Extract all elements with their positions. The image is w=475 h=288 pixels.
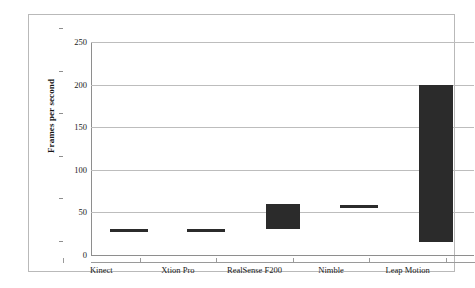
- y-axis-tick-label: 50: [57, 208, 87, 217]
- y-axis-tick-label: 150: [57, 123, 87, 132]
- bar-kinect: [110, 229, 148, 232]
- x-axis-tick-mark: [216, 258, 217, 263]
- y-axis-tick-label: 0: [57, 251, 87, 260]
- gridline: [91, 255, 474, 256]
- gridline: [91, 170, 474, 171]
- y-axis-tick-mark: [59, 71, 63, 72]
- x-axis-tick-mark: [446, 258, 447, 263]
- x-axis-category-label: Leap Motion: [369, 266, 446, 275]
- bar-leap-motion: [419, 85, 453, 243]
- gridline: [91, 85, 474, 86]
- y-axis-tick-mark: [59, 28, 63, 29]
- y-axis-tick-label: 250: [57, 38, 87, 47]
- plot-area: [91, 42, 474, 255]
- bar-nimble: [340, 205, 378, 208]
- bar-xtion-pro: [187, 229, 225, 232]
- y-axis-tick-label: 100: [57, 166, 87, 175]
- chart-frame: Frames per second 050100150200250 Kinect…: [28, 14, 455, 272]
- x-axis-tick-mark: [293, 258, 294, 263]
- bar-realsense-f200: [266, 204, 300, 230]
- x-axis-line: [91, 262, 475, 263]
- y-axis-tick-mark: [59, 241, 63, 242]
- gridline: [91, 42, 474, 43]
- y-axis-tick-mark: [59, 113, 63, 114]
- y-axis-tick-mark: [59, 156, 63, 157]
- y-axis-tick-mark: [59, 198, 63, 199]
- x-axis-tick-mark: [369, 258, 370, 263]
- y-axis-tick-labels: 050100150200250: [55, 42, 87, 255]
- x-axis-category-label: Nimble: [293, 266, 370, 275]
- x-axis-category-label: Xtion Pro: [140, 266, 217, 275]
- gridline: [91, 127, 474, 128]
- y-axis-tick-label: 200: [57, 81, 87, 90]
- x-axis-category-label: Kinect: [63, 266, 140, 275]
- x-axis-category-label: RealSense F200: [216, 266, 293, 275]
- x-axis-tick-mark: [63, 258, 64, 263]
- x-axis-tick-mark: [140, 258, 141, 263]
